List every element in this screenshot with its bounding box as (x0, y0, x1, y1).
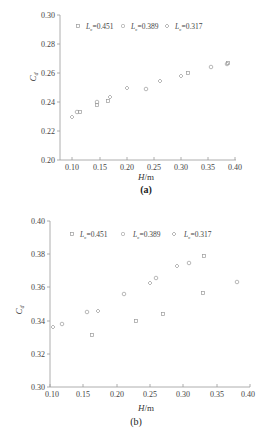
legend-item-label: Lc=0.317 (183, 230, 212, 240)
square-marker-icon (77, 25, 80, 28)
figure: 0.30 0.28 0.26 0.24 0.22 0.20 0.10 0.15 … (0, 0, 268, 440)
chart-b-panel-label: (b) (130, 416, 142, 428)
chart-a-xtick-label: 0.25 (147, 163, 161, 172)
chart-a-x-ticks: 0.10 0.15 0.20 0.25 0.30 0.35 0.40 (65, 157, 242, 172)
diamond-marker-icon (172, 232, 176, 236)
diamond-marker-icon (165, 24, 169, 28)
chart-b-x-ticks: 0.10 0.15 0.20 0.25 0.30 0.35 0.40 (45, 384, 255, 399)
chart-b-legend: Lc=0.451 Lc=0.389 Lc=0.317 (71, 230, 212, 240)
chart-b-xtick-label: 0.10 (45, 390, 59, 399)
chart-b-axes (50, 221, 250, 387)
chart-a-panel-label: (a) (140, 184, 152, 196)
chart-b-x-label: H/m (137, 403, 154, 413)
chart-a-ytick-label: 0.28 (41, 40, 55, 49)
chart-a-xtick-label: 0.20 (120, 163, 134, 172)
chart-a-xtick-label: 0.15 (93, 163, 107, 172)
square-marker-icon (71, 233, 74, 236)
legend-item-label: Lc=0.317 (174, 22, 203, 32)
chart-b-xtick-label: 0.15 (76, 390, 90, 399)
chart-b-ytick-label: 0.38 (31, 250, 45, 259)
chart-a-axes (60, 15, 236, 160)
chart-b-points (51, 255, 239, 337)
chart-a-ytick-label: 0.26 (41, 69, 55, 78)
chart-a-ytick-label: 0.24 (41, 98, 55, 107)
chart-b-y-label: Cd (14, 304, 25, 314)
chart-b-ytick-label: 0.34 (31, 317, 45, 326)
chart-b-xtick-label: 0.40 (241, 390, 255, 399)
chart-b-ytick-label: 0.36 (31, 283, 45, 292)
chart-a-xtick-label: 0.35 (201, 163, 215, 172)
chart-b-xtick-label: 0.20 (110, 390, 124, 399)
chart-a-legend: Lc=0.451 Lc=0.389 Lc=0.317 (77, 22, 203, 32)
chart-a-y-ticks: 0.30 0.28 0.26 0.24 0.22 0.20 (41, 11, 60, 165)
chart-a: 0.30 0.28 0.26 0.24 0.22 0.20 0.10 0.15 … (28, 11, 242, 196)
legend-item-label: Lc=0.451 (79, 230, 108, 240)
circle-marker-icon (122, 25, 125, 28)
legend-item-label: Lc=0.451 (85, 22, 114, 32)
chart-a-xtick-label: 0.30 (174, 163, 188, 172)
chart-a-xtick-label: 0.10 (65, 163, 79, 172)
legend-item-label: Lc=0.389 (130, 22, 159, 32)
chart-b-y-ticks: 0.40 0.38 0.36 0.34 0.32 0.30 (31, 217, 50, 392)
chart-a-xtick-label: 0.40 (228, 163, 242, 172)
legend-item-label: Lc=0.389 (132, 230, 161, 240)
chart-b-ytick-label: 0.40 (31, 217, 45, 226)
chart-a-x-label: H/m (137, 172, 154, 182)
chart-a-ytick-label: 0.30 (41, 11, 55, 20)
chart-b: 0.40 0.38 0.36 0.34 0.32 0.30 0.10 0.15 … (14, 217, 255, 428)
chart-a-ytick-label: 0.20 (41, 156, 55, 165)
chart-a-ytick-label: 0.22 (41, 127, 55, 136)
chart-b-xtick-label: 0.30 (176, 390, 190, 399)
chart-a-points (70, 62, 230, 120)
chart-a-y-label: Cd (28, 71, 39, 81)
chart-b-ytick-label: 0.32 (31, 350, 45, 359)
chart-b-xtick-label: 0.35 (210, 390, 224, 399)
chart-b-ytick-label: 0.30 (31, 383, 45, 392)
circle-marker-icon (122, 233, 125, 236)
chart-b-xtick-label: 0.25 (143, 390, 157, 399)
